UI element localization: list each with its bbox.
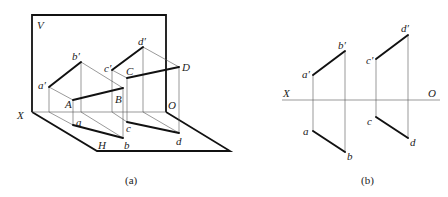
label-a-prime-b: a′ — [302, 68, 311, 80]
v-plane — [32, 15, 166, 112]
segment-c-prime-d-prime-b — [376, 35, 408, 59]
label-a-prime: a′ — [38, 79, 47, 91]
segment-cd-b — [376, 117, 408, 138]
cd-projectors — [112, 47, 179, 133]
label-a-b: a — [303, 125, 309, 137]
label-b-b: b — [347, 150, 353, 162]
label-O-b: O — [428, 87, 436, 99]
segment-a-prime-b-prime-b — [313, 51, 345, 75]
figure-b: X O a′ b′ a b c′ d′ c d (b) — [282, 22, 440, 187]
h-plane — [32, 112, 230, 151]
figure-a: V X H O a′ b′ A B a b c′ d′ C D c d (a) — [16, 15, 230, 187]
caption-b: (b) — [361, 174, 374, 187]
segment-cd — [127, 122, 179, 133]
label-c-b: c — [367, 115, 372, 127]
segment-a-prime-b-prime — [49, 62, 81, 87]
label-b-prime: b′ — [72, 50, 81, 62]
label-B: B — [115, 93, 122, 105]
label-C: C — [126, 65, 134, 77]
label-a: a — [76, 116, 82, 128]
label-c-prime: c′ — [104, 62, 112, 74]
caption-a: (a) — [125, 174, 138, 187]
label-X-b: X — [282, 87, 291, 99]
label-H: H — [97, 139, 107, 151]
label-d-prime: d′ — [138, 35, 147, 47]
label-b-prime-b: b′ — [338, 39, 347, 51]
label-X: X — [16, 109, 25, 121]
segment-ab-b — [313, 131, 345, 152]
label-d-b: d — [410, 136, 416, 148]
label-c-prime-b: c′ — [366, 54, 374, 66]
label-b: b — [124, 139, 130, 151]
label-D: D — [181, 61, 190, 73]
label-O: O — [168, 99, 176, 111]
label-d: d — [176, 135, 182, 147]
projection-diagram: V X H O a′ b′ A B a b c′ d′ C D c d (a) … — [0, 0, 448, 197]
label-A: A — [64, 98, 72, 110]
segment-CD — [127, 67, 179, 78]
label-c: c — [126, 122, 131, 134]
label-V: V — [37, 19, 45, 31]
label-d-prime-b: d′ — [401, 22, 410, 34]
